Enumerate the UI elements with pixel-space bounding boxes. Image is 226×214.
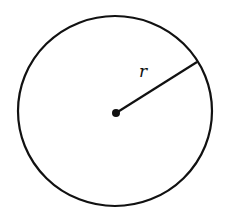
circle-diagram: r bbox=[0, 0, 226, 214]
radius-line bbox=[116, 62, 197, 113]
radius-label: r bbox=[139, 61, 148, 81]
center-point bbox=[112, 109, 120, 117]
